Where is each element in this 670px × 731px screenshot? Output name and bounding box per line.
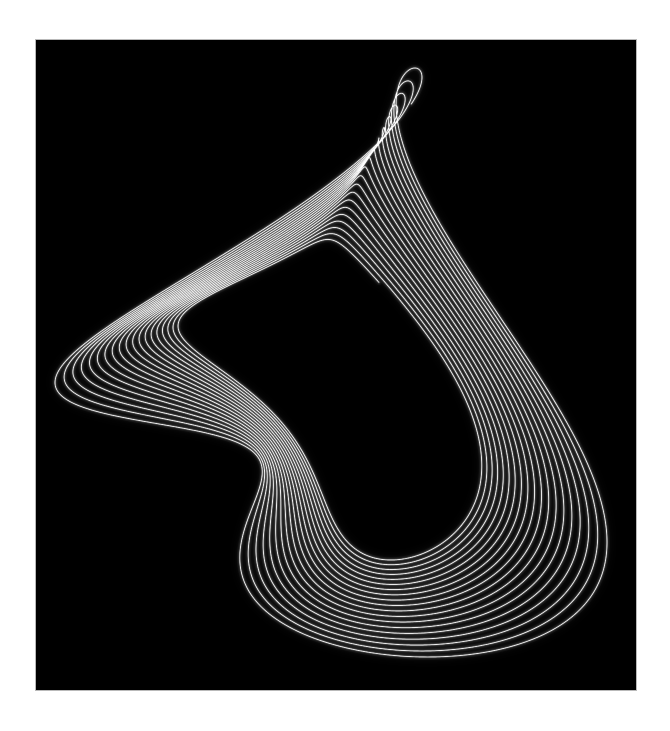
plot-area bbox=[36, 40, 636, 690]
figure-description: Damped harmonograph (Lissajous) curve: a… bbox=[0, 0, 1, 1]
page-root: Damped harmonograph (Lissajous) curve: a… bbox=[0, 0, 670, 731]
harmonograph-canvas bbox=[36, 40, 636, 690]
